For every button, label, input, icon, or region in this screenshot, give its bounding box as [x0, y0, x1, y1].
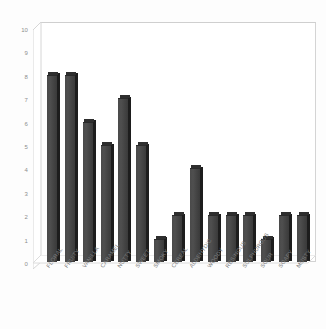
x-axis-labels: FLORALFRUITYVANILLACARAMELNUTTYSWEETSMOK… [33, 266, 316, 329]
y-axis-tick-label: 0 [25, 261, 28, 267]
y-axis-tick-label: 1 [25, 238, 28, 244]
bar-top-face [102, 142, 112, 145]
y-axis-tick-label: 5 [25, 144, 28, 150]
bar [83, 119, 96, 262]
bar [136, 142, 149, 262]
bar-chart: 012345678910 FLORALFRUITYVANILLACARAMELN… [0, 0, 326, 329]
bar-top-face [174, 212, 184, 215]
y-axis-tick-label: 10 [21, 27, 28, 33]
bar-front-face [118, 98, 128, 262]
bar [118, 95, 131, 262]
bar [65, 72, 78, 262]
y-axis-tick-label: 4 [25, 167, 28, 173]
bar-top-face [84, 119, 94, 122]
y-axis-tick-label: 9 [25, 50, 28, 56]
bar-front-face [47, 75, 57, 262]
bar-side-face [111, 144, 114, 261]
y-axis-tick-label: 3 [25, 191, 28, 197]
bar-front-face [136, 145, 146, 262]
bar-side-face [128, 97, 131, 261]
bar-side-face [75, 73, 78, 260]
bar-top-face [48, 72, 58, 75]
bar-top-face [120, 95, 130, 98]
y-axis-tick-label: 8 [25, 74, 28, 80]
y-axis-tick-label: 7 [25, 97, 28, 103]
bar-front-face [101, 145, 111, 262]
bar-top-face [245, 212, 255, 215]
bar-side-face [146, 144, 149, 261]
bar-front-face [65, 75, 75, 262]
bar-side-face [93, 120, 96, 260]
bar-top-face [66, 72, 76, 75]
bar [47, 72, 60, 262]
y-axis: 012345678910 [0, 0, 33, 329]
bar [101, 142, 114, 262]
bars-layer [33, 22, 316, 267]
bar-top-face [209, 212, 219, 215]
y-axis-tick-label: 6 [25, 121, 28, 127]
bar-top-face [299, 212, 309, 215]
bar-side-face [57, 73, 60, 260]
bar-top-face [191, 165, 201, 168]
y-axis-tick-label: 2 [25, 214, 28, 220]
bar-top-face [156, 236, 166, 239]
bar-top-face [138, 142, 148, 145]
bar-top-face [281, 212, 291, 215]
bar-front-face [83, 122, 93, 262]
bar-front-face [190, 168, 200, 262]
bar-top-face [227, 212, 237, 215]
